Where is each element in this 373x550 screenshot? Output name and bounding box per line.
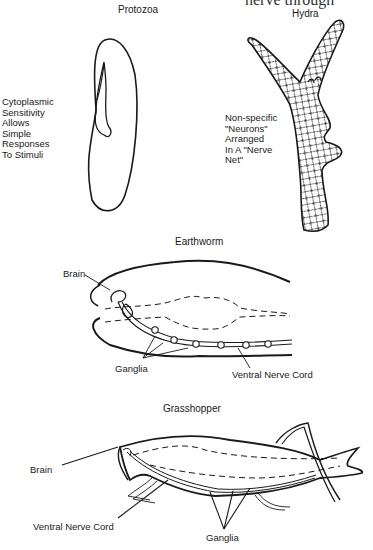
- grasshopper-drawing: [62, 423, 362, 529]
- earthworm-drawing: [85, 261, 292, 368]
- nervous-system-illustrations: [0, 0, 373, 550]
- protozoa-drawing: [89, 39, 137, 211]
- hydra-drawing: [248, 20, 344, 231]
